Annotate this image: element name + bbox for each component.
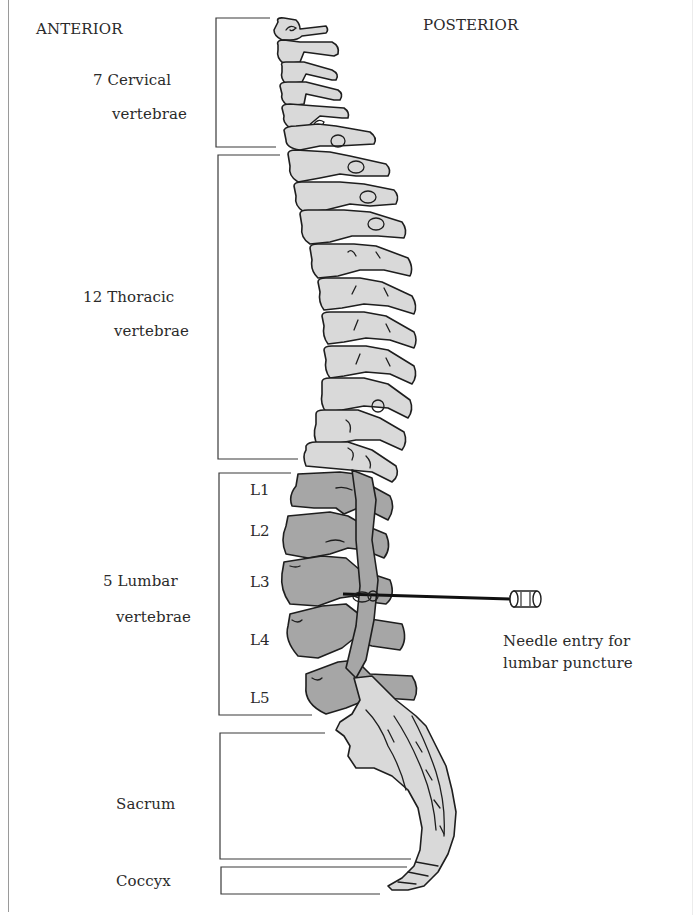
vertebra-l1 [291, 472, 393, 520]
cervical-bracket [216, 18, 276, 147]
needle-hub-icon [510, 591, 541, 607]
sacrum [336, 676, 456, 890]
lumbar-vertebrae [282, 470, 417, 714]
spine-diagram [0, 0, 694, 915]
cervical-vertebrae [274, 18, 375, 150]
sacrum-coccyx [336, 676, 456, 890]
vertebra-l4 [287, 604, 404, 658]
thoracic-bracket [218, 155, 298, 459]
thoracic-vertebrae [288, 150, 416, 482]
coccyx-bracket [221, 867, 407, 894]
